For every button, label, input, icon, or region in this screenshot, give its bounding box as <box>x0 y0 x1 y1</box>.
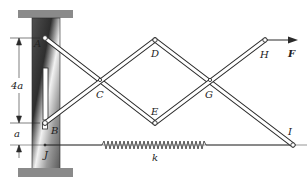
pin-C <box>98 78 101 81</box>
label-E: E <box>150 106 159 117</box>
pin-I <box>291 143 295 147</box>
label-A: A <box>33 38 41 49</box>
label-I: I <box>287 126 293 137</box>
label-J: J <box>42 149 49 160</box>
slot <box>43 68 48 120</box>
label-C: C <box>96 89 104 100</box>
spring-label-k: k <box>152 152 158 163</box>
dim-label-4a: 4a <box>10 80 23 91</box>
bottom-cap <box>18 168 73 177</box>
top-cap <box>18 10 73 18</box>
label-D: D <box>150 48 159 59</box>
label-B: B <box>50 125 58 136</box>
bar-D-I <box>155 40 293 145</box>
pin-E <box>153 121 157 125</box>
label-G: G <box>205 89 213 100</box>
pin-J <box>44 144 46 146</box>
pin-A <box>43 36 48 41</box>
scissor-linkage-diagram: 4a a k <box>0 0 307 183</box>
force-arrow <box>267 37 298 44</box>
pin-G <box>208 78 211 81</box>
spring <box>45 141 293 149</box>
pin-D <box>153 38 157 42</box>
pin-B <box>43 121 48 126</box>
bars <box>45 38 293 145</box>
label-F: F <box>287 48 296 59</box>
dim-label-a: a <box>14 128 20 139</box>
label-H: H <box>259 49 269 60</box>
pin-H <box>263 38 267 42</box>
